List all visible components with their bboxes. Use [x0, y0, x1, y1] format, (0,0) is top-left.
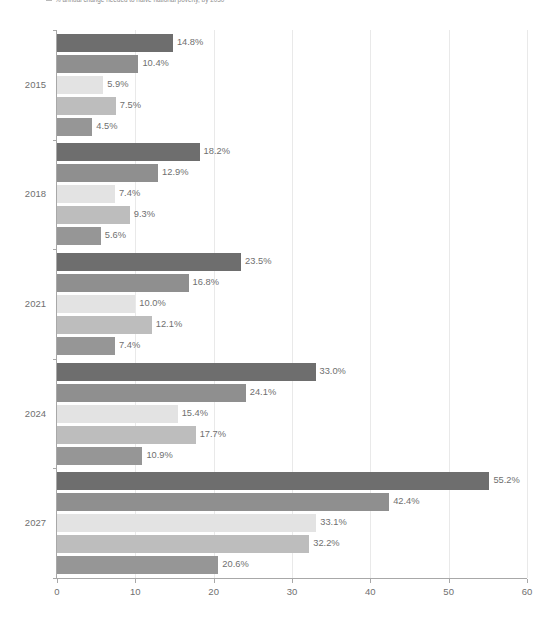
bar[interactable]: [57, 227, 101, 245]
bar-value-label: 10.4%: [142, 58, 168, 68]
x-axis-tick-label: 60: [522, 586, 533, 597]
bar-value-label: 15.4%: [182, 408, 208, 418]
x-axis-tick: [527, 579, 528, 583]
chart-title-strip: % annual change needed to halve national…: [0, 0, 550, 7]
bar-value-label: 33.0%: [320, 366, 346, 376]
x-axis-tick-label: 50: [443, 586, 454, 597]
bar-value-label: 32.2%: [313, 538, 339, 548]
bar-value-label: 17.7%: [200, 429, 226, 439]
page-title: % annual change needed to halve national…: [55, 0, 224, 3]
x-axis-tick: [449, 579, 450, 583]
bar[interactable]: [57, 363, 316, 381]
bar[interactable]: [57, 164, 158, 182]
bar-group: 202433.0%24.1%15.4%17.7%10.9%: [57, 359, 527, 469]
x-axis-tick: [57, 579, 58, 583]
bar[interactable]: [57, 316, 152, 334]
chart-title-row: % annual change needed to halve national…: [46, 0, 224, 4]
bar[interactable]: [57, 426, 196, 444]
bar[interactable]: [57, 55, 138, 73]
bar-value-label: 33.1%: [320, 517, 346, 527]
bar-value-label: 20.6%: [222, 559, 248, 569]
bar[interactable]: [57, 295, 135, 313]
bar-value-label: 5.9%: [107, 79, 128, 89]
bar-value-label: 10.9%: [146, 450, 172, 460]
x-axis-tick-label: 30: [287, 586, 298, 597]
x-axis-tick: [214, 579, 215, 583]
x-axis-tick-label: 0: [54, 586, 59, 597]
x-axis-tick-label: 20: [208, 586, 219, 597]
y-axis-group-label: 2024: [0, 408, 46, 419]
x-axis-tick: [292, 579, 293, 583]
chart-plot-area: 0102030405060 201514.8%10.4%5.9%7.5%4.5%…: [57, 30, 527, 578]
bar-group: 201818.2%12.9%7.4%9.3%5.6%: [57, 140, 527, 250]
bar-value-label: 16.8%: [193, 277, 219, 287]
x-axis-tick-label: 10: [130, 586, 141, 597]
bar-value-label: 12.1%: [156, 319, 182, 329]
bar-value-label: 5.6%: [105, 230, 126, 240]
bar-value-label: 4.5%: [96, 121, 117, 131]
bar-value-label: 10.0%: [139, 298, 165, 308]
bar-value-label: 24.1%: [250, 387, 276, 397]
y-axis-group-label: 2027: [0, 517, 46, 528]
bar-value-label: 12.9%: [162, 167, 188, 177]
y-axis-group-label: 2015: [0, 79, 46, 90]
bar-value-label: 7.4%: [119, 340, 140, 350]
bar[interactable]: [57, 185, 115, 203]
bar[interactable]: [57, 472, 489, 490]
bar-value-label: 14.8%: [177, 37, 203, 47]
y-axis-group-label: 2018: [0, 188, 46, 199]
bar[interactable]: [57, 493, 389, 511]
bar-value-label: 18.2%: [204, 146, 230, 156]
gridline: [527, 30, 528, 578]
y-axis-group-label: 2021: [0, 298, 46, 309]
x-axis-tick-label: 40: [365, 586, 376, 597]
bar-group: 202755.2%42.4%33.1%32.2%20.6%: [57, 468, 527, 578]
bar-value-label: 9.3%: [134, 209, 155, 219]
legend-square-icon: [46, 0, 52, 1]
bar-value-label: 7.5%: [120, 100, 141, 110]
bar-value-label: 55.2%: [493, 475, 519, 485]
bar[interactable]: [57, 118, 92, 136]
bar[interactable]: [57, 97, 116, 115]
bar-group: 201514.8%10.4%5.9%7.5%4.5%: [57, 30, 527, 140]
x-axis-tick: [370, 579, 371, 583]
bar-value-label: 23.5%: [245, 256, 271, 266]
bar[interactable]: [57, 143, 200, 161]
bar[interactable]: [57, 206, 130, 224]
bar[interactable]: [57, 514, 316, 532]
bar-value-label: 7.4%: [119, 188, 140, 198]
bar[interactable]: [57, 535, 309, 553]
x-axis-tick: [135, 579, 136, 583]
bar[interactable]: [57, 337, 115, 355]
bar[interactable]: [57, 447, 142, 465]
bar[interactable]: [57, 253, 241, 271]
bar[interactable]: [57, 405, 178, 423]
bar[interactable]: [57, 34, 173, 52]
bar-group: 202123.5%16.8%10.0%12.1%7.4%: [57, 249, 527, 359]
bar[interactable]: [57, 274, 189, 292]
bar[interactable]: [57, 384, 246, 402]
bar[interactable]: [57, 76, 103, 94]
bar-value-label: 42.4%: [393, 496, 419, 506]
bar[interactable]: [57, 556, 218, 574]
y-axis-tick: [53, 578, 57, 579]
